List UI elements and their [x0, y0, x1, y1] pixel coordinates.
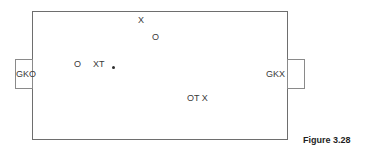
pitch-outline	[32, 11, 288, 140]
player-marker-top-o: O	[152, 33, 159, 42]
ball-icon	[112, 66, 115, 69]
goal-box-right	[287, 59, 305, 89]
figure-container: GKO GKX X O O XT OT X Figure 3.28	[0, 0, 367, 159]
player-marker-left-xt: XT	[93, 60, 105, 69]
player-marker-top-x: X	[138, 16, 144, 25]
player-marker-left-o: O	[74, 60, 81, 69]
player-marker-lower-ot-x: OT X	[187, 94, 208, 103]
goal-label-left: GKO	[16, 70, 36, 79]
figure-caption: Figure 3.28	[303, 135, 351, 145]
goal-label-right: GKX	[266, 70, 285, 79]
